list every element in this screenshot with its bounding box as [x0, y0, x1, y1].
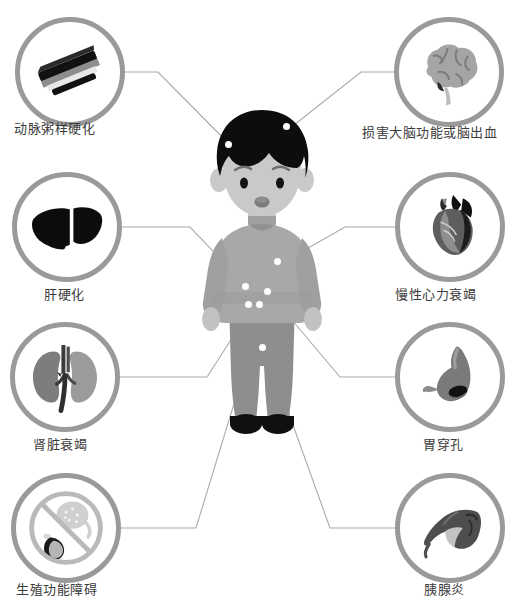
dot-groin	[259, 344, 266, 351]
organ-label-chronic-heart-failure: 慢性心力衰竭	[395, 288, 476, 301]
boy-figure	[189, 104, 335, 444]
dot-abdomen-mid	[245, 301, 252, 308]
organ-circle-kidney-failure[interactable]	[10, 322, 120, 432]
dot-chest-right	[274, 258, 281, 265]
organ-label-gastric-perforation: 胃穿孔	[423, 438, 464, 451]
organ-label-brain-damage: 损害大脑功能或脑出血	[362, 126, 497, 139]
kidney-icon	[25, 337, 105, 417]
brain-icon	[409, 32, 489, 112]
organ-label-liver-cirrhosis: 肝硬化	[44, 288, 85, 301]
organ-circle-brain-damage[interactable]	[394, 17, 504, 127]
pancreas-icon	[410, 488, 490, 568]
dot-abdomen-mid2	[256, 301, 263, 308]
no-reproduction-icon	[26, 488, 106, 568]
artery-icon	[30, 32, 110, 112]
organ-circle-gastric-perforation[interactable]	[395, 322, 505, 432]
organ-label-pancreatitis: 胰腺炎	[424, 583, 465, 596]
organ-label-reproductive-dysfunction: 生殖功能障碍	[16, 583, 97, 596]
organ-label-atherosclerosis: 动脉粥样硬化	[14, 122, 95, 135]
heart-icon	[410, 187, 490, 267]
organ-circle-liver-cirrhosis[interactable]	[12, 172, 122, 282]
organ-circle-chronic-heart-failure[interactable]	[395, 172, 505, 282]
dot-abdomen-left	[242, 283, 249, 290]
infographic-stage: 动脉粥样硬化 肝硬化 肾脏衰竭 生殖功能障碍	[0, 0, 522, 608]
organ-circle-reproductive-dysfunction[interactable]	[11, 473, 121, 583]
organ-circle-atherosclerosis[interactable]	[15, 17, 125, 127]
dot-head-left	[225, 141, 232, 148]
organ-label-kidney-failure: 肾脏衰竭	[33, 438, 87, 451]
liver-icon	[27, 187, 107, 267]
stomach-icon	[410, 337, 490, 417]
dot-abdomen-right	[264, 288, 271, 295]
dot-head-right	[283, 123, 290, 130]
organ-circle-pancreatitis[interactable]	[395, 473, 505, 583]
